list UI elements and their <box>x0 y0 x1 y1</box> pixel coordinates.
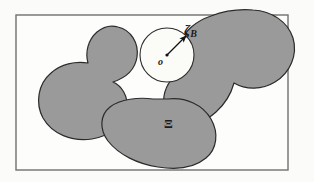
diagram-canvas <box>0 0 314 182</box>
ball-center-dot <box>165 53 168 56</box>
ball-radius-label: ζB <box>184 24 197 39</box>
ball-center-label: o <box>158 57 163 67</box>
ball-radius-subscript: B <box>190 28 197 39</box>
figure-container: ζB o Ξ <box>0 0 314 182</box>
set-symbol-label: Ξ <box>164 117 173 130</box>
